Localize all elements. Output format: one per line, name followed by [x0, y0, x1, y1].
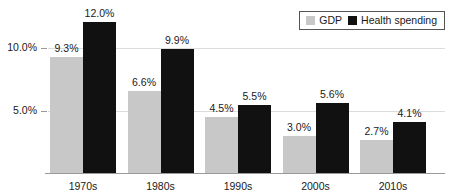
x-axis-label-1990s: 1990s [224, 180, 253, 192]
y-axis-tick [41, 111, 47, 112]
bar-1980s-health-spending [161, 49, 194, 174]
legend-item-gdp: GDP [306, 15, 342, 26]
bar-value-label: 9.3% [55, 42, 79, 54]
y-axis-tick [41, 48, 47, 49]
legend-label-gdp: GDP [319, 15, 342, 26]
bar-1970s-health-spending [83, 22, 116, 174]
bar-2010s-health-spending [393, 122, 426, 174]
bar-1990s-health-spending [238, 105, 271, 174]
bar-1970s-gdp [50, 57, 83, 174]
bar-2000s-health-spending [316, 103, 349, 174]
plot-area: 9.3%12.0%6.6%9.9%4.5%5.5%3.0%5.6%2.7%4.1… [48, 6, 445, 174]
x-axis-label-1970s: 1970s [69, 180, 98, 192]
bar-value-label: 12.0% [85, 7, 115, 19]
bar-value-label: 5.6% [320, 88, 344, 100]
legend-swatch-health-spending [348, 16, 357, 25]
bar-1980s-gdp [128, 91, 161, 174]
bar-value-label: 2.7% [365, 125, 389, 137]
legend-swatch-gdp [306, 16, 315, 25]
bar-value-label: 9.9% [165, 34, 189, 46]
bar-2010s-gdp [360, 140, 393, 174]
x-axis-label-1980s: 1980s [146, 180, 175, 192]
bar-1990s-gdp [205, 117, 238, 174]
bar-value-label: 6.6% [132, 76, 156, 88]
chart-legend: GDP Health spending [299, 11, 445, 30]
legend-item-health-spending: Health spending [348, 15, 437, 26]
bar-2000s-gdp [283, 136, 316, 174]
bar-value-label: 3.0% [287, 121, 311, 133]
x-axis-line [45, 173, 445, 175]
x-axis-label-2010s: 2010s [379, 180, 408, 192]
grouped-bar-chart: 5.0%10.0% 9.3%12.0%6.6%9.9%4.5%5.5%3.0%5… [0, 0, 450, 196]
y-axis-tick-label: 10.0% [0, 41, 37, 53]
bar-value-label: 5.5% [243, 90, 267, 102]
bar-value-label: 4.5% [210, 102, 234, 114]
x-axis-label-2000s: 2000s [301, 180, 330, 192]
y-axis-tick-label: 5.0% [0, 104, 37, 116]
bar-value-label: 4.1% [398, 107, 422, 119]
legend-label-health-spending: Health spending [361, 15, 437, 26]
